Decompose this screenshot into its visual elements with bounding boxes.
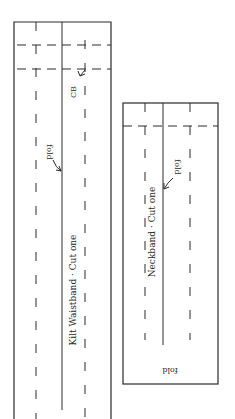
neckband-piece (123, 103, 218, 384)
neckband-outline (123, 103, 218, 384)
cb-arrow-icon (78, 70, 85, 76)
neckband-title: Neckband · Cut one (147, 187, 157, 278)
kilt-waistband-piece (14, 22, 111, 419)
neckband-fold-label: fold (173, 159, 182, 174)
kilt-waistband-title: Kilt Waistband · Cut one (68, 235, 78, 346)
neckband-fold-arrow-icon (164, 178, 173, 189)
cb-label: CB (69, 86, 78, 98)
pattern-diagram: CB fold Kilt Waistband · Cut one fold Ne… (0, 0, 235, 419)
fold-arrow-icon (53, 160, 61, 171)
neckband-bottom-fold-label: fold (162, 366, 177, 375)
kilt-waistband-fold-label: fold (45, 144, 54, 159)
